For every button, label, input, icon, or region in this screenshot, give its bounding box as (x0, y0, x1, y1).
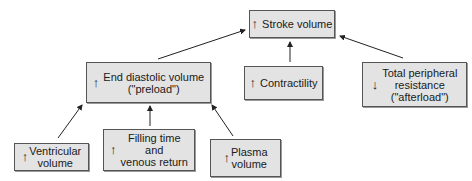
node-label-line1: Plasma (231, 146, 268, 158)
node-total-peripheral-resistance: ↓ Total peripheral resistance ("afterloa… (362, 62, 467, 107)
node-label-line1: Total peripheral (382, 67, 457, 79)
node-label-line2: ("preload") (103, 83, 204, 95)
node-label-line1: Ventricular (29, 145, 81, 157)
up-arrow-icon: ↑ (22, 151, 29, 163)
node-label-line3: venous return (121, 156, 188, 168)
edge-plasma-to-edv (212, 105, 233, 136)
node-label-line1: End diastolic volume (103, 71, 204, 83)
node-contractility: ↑ Contractility (244, 66, 323, 100)
edge-ventricular-to-edv (58, 105, 82, 138)
up-arrow-icon: ↑ (223, 152, 230, 164)
up-arrow-icon: ↑ (250, 77, 257, 89)
node-label-line2: volume (231, 158, 268, 170)
node-stroke-volume: ↑ Stroke volume (249, 10, 335, 38)
node-ventricular-volume: ↑ Ventricular volume (14, 143, 89, 171)
node-label: Stroke volume (262, 18, 332, 30)
node-plasma-volume: ↑ Plasma volume (210, 139, 281, 177)
node-label-line2: volume (29, 157, 81, 169)
up-arrow-icon: ↑ (93, 77, 100, 89)
up-arrow-icon: ↑ (110, 144, 117, 156)
edge-tpr-to-sv (340, 36, 403, 58)
edge-edv-to-sv (158, 30, 245, 59)
node-label-line3: ("afterload") (382, 91, 457, 103)
node-label: Contractility (260, 77, 317, 89)
node-label-line2: and (121, 144, 188, 156)
node-label-line1: Filling time (121, 132, 188, 144)
down-arrow-icon: ↓ (372, 79, 379, 91)
node-end-diastolic-volume: ↑ End diastolic volume ("preload") (86, 62, 211, 103)
node-filling-time: ↑ Filling time and venous return (103, 129, 195, 171)
node-label-line2: resistance (382, 79, 457, 91)
up-arrow-icon: ↑ (252, 18, 259, 30)
